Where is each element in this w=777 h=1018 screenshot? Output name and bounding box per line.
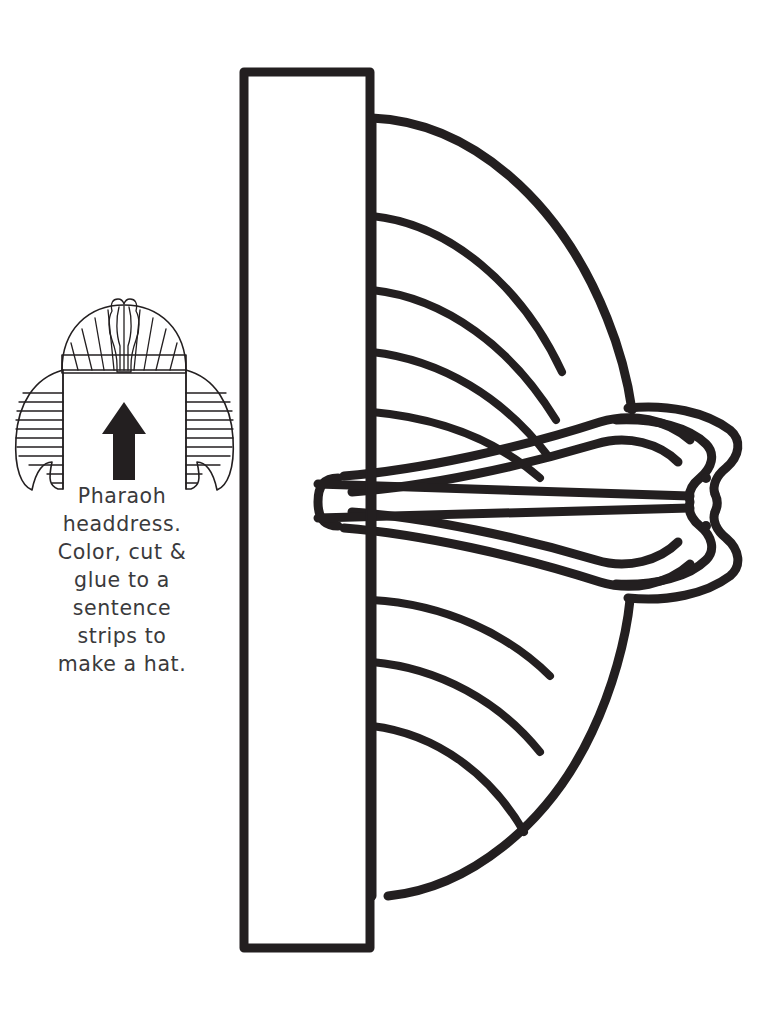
headdress-half-pattern (244, 72, 738, 948)
artboard: Pharaoh headdress. Color, cut & glue to … (0, 0, 777, 1018)
coloring-page: Pharaoh headdress. Color, cut & glue to … (0, 0, 777, 1018)
stripe-lower-3 (372, 726, 524, 832)
cobra-eye-upper (701, 473, 711, 483)
dome-outer-edge-upper (372, 118, 632, 410)
caption-line-2: headdress. (63, 512, 182, 536)
caption-block: Pharaoh headdress. Color, cut & glue to … (58, 484, 187, 676)
thumb-left-lappet (16, 370, 63, 490)
caption-line-7: make a hat. (58, 652, 187, 676)
caption-line-5: sentence (73, 596, 172, 620)
thumb-right-lappet (186, 370, 233, 490)
thumbnail-assembled-headdress (16, 299, 234, 490)
cobra-eye-lower (701, 521, 711, 531)
caption-line-6: strips to (77, 624, 166, 648)
cobra-snout-tip (715, 494, 717, 512)
caption-line-4: glue to a (74, 568, 170, 592)
caption-line-1: Pharaoh (78, 484, 167, 508)
caption-line-3: Color, cut & (58, 540, 187, 564)
dome-stripes-lower (372, 600, 550, 832)
stripe-lower-2 (372, 662, 540, 752)
thumb-up-arrow-icon (102, 402, 146, 480)
